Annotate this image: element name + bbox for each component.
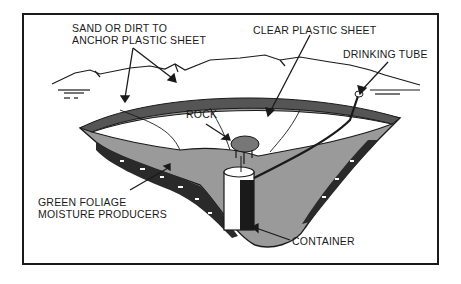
solar-still-illustration [0,0,461,284]
hills [52,55,420,98]
label-drinking-tube: DRINKING TUBE [343,48,428,60]
label-clear-plastic-sheet: CLEAR PLASTIC SHEET [253,24,376,36]
label-container: CONTAINER [292,235,355,247]
label-rock: ROCK [186,108,217,120]
label-foliage-line2: MOISTURE PRODUCERS [38,208,167,220]
rock [231,136,259,152]
label-sand-line1: SAND OR DIRT TO [72,22,167,34]
label-foliage-line1: GREEN FOLIAGE [38,196,126,208]
label-sand-line2: ANCHOR PLASTIC SHEET [72,34,206,46]
